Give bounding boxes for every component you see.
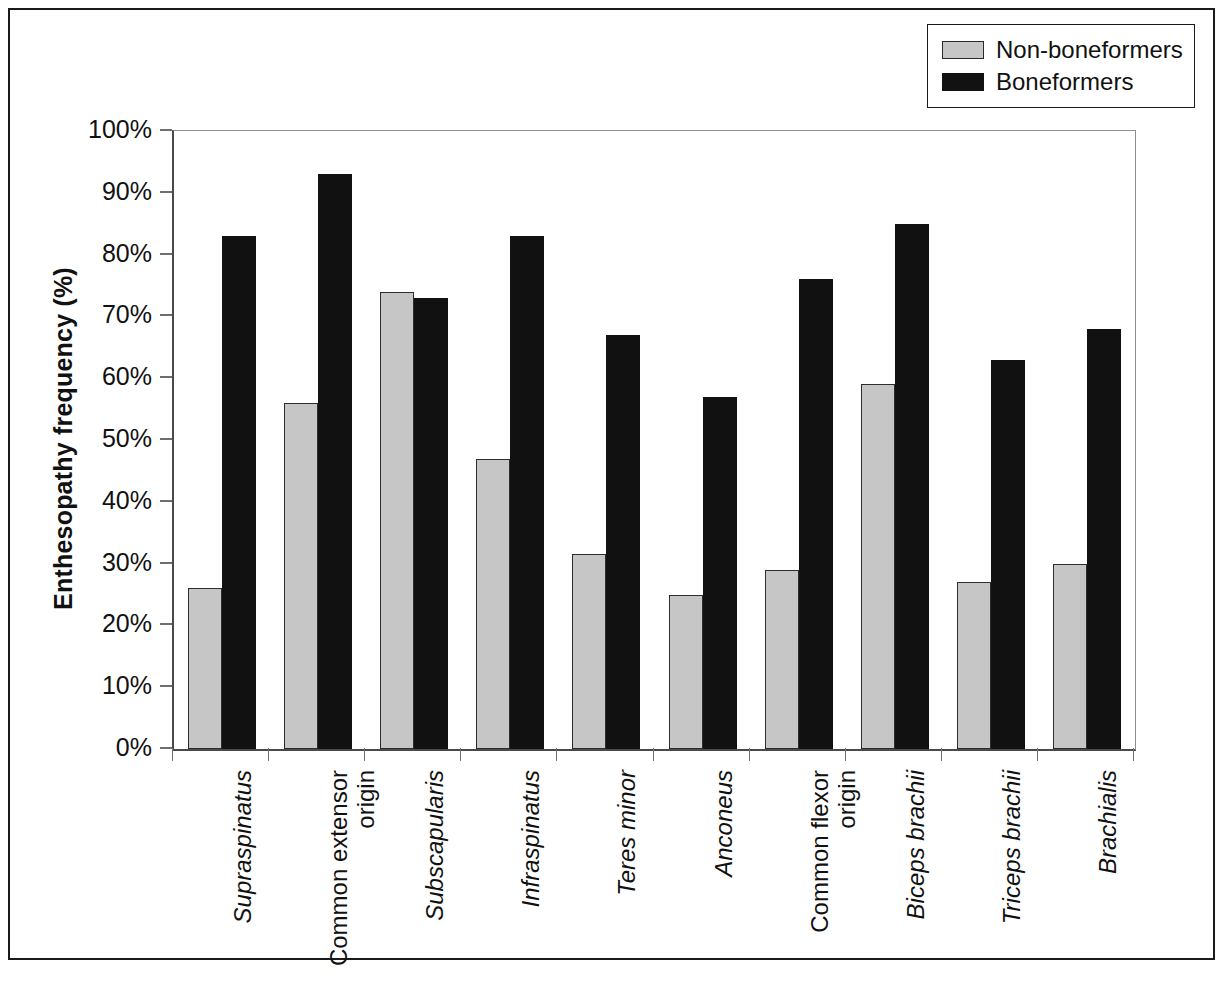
legend-label: Non-boneformers (996, 38, 1183, 62)
bar-non-boneformers (669, 595, 703, 750)
x-axis-category-label: Biceps brachii (903, 770, 930, 992)
x-axis-category-label: Common extensor origin (326, 770, 380, 992)
y-axis-tick-label: 60% (42, 364, 152, 389)
bar-boneformers (318, 174, 352, 749)
x-axis-tick (364, 748, 365, 761)
y-axis-tick-label: 40% (42, 488, 152, 513)
bar-non-boneformers (572, 554, 606, 749)
bar-non-boneformers (861, 384, 895, 749)
y-axis-tick-label: 10% (42, 673, 152, 698)
x-axis-tick (845, 748, 846, 761)
y-axis-tick (160, 500, 172, 502)
y-axis-tick-label: 80% (42, 241, 152, 266)
bar-non-boneformers (1053, 564, 1087, 749)
chart-legend: Non-boneformersBoneformers (927, 24, 1195, 108)
bar-boneformers (1087, 329, 1121, 749)
y-axis-tick (160, 747, 172, 749)
y-axis-tick-label: 30% (42, 550, 152, 575)
x-axis-tick (172, 748, 173, 761)
bar-non-boneformers (765, 570, 799, 749)
legend-label: Boneformers (996, 70, 1133, 94)
x-axis-tick (653, 748, 654, 761)
x-axis-tick (268, 748, 269, 761)
legend-swatch-icon (942, 41, 984, 59)
x-axis-category-label: Supraspinatus (230, 770, 257, 992)
x-axis-category-label: Subscapularis (422, 770, 449, 992)
bar-boneformers (606, 335, 640, 749)
bar-non-boneformers (188, 588, 222, 749)
y-axis-tick (160, 376, 172, 378)
x-axis-tick (1133, 748, 1134, 761)
bar-boneformers (895, 224, 929, 749)
x-axis-tick (460, 748, 461, 761)
y-axis-tick-label: 20% (42, 611, 152, 636)
y-axis-tick (160, 253, 172, 255)
y-axis-tick (160, 438, 172, 440)
x-axis-category-label: Anconeus (711, 770, 738, 992)
y-axis-tick-label: 0% (42, 735, 152, 760)
bar-boneformers (414, 298, 448, 749)
plot-area (172, 130, 1136, 751)
y-axis-tick-label: 70% (42, 302, 152, 327)
x-axis-tick (1037, 748, 1038, 761)
x-axis-category-label: Triceps brachii (999, 770, 1026, 992)
y-axis-tick-label: 50% (42, 426, 152, 451)
y-axis-tick (160, 191, 172, 193)
y-axis-tick (160, 562, 172, 564)
legend-item-boneformers: Boneformers (942, 66, 1194, 98)
y-axis-tick-label: 100% (42, 117, 152, 142)
x-axis-category-label: Brachialis (1095, 770, 1122, 992)
bar-boneformers (510, 236, 544, 749)
x-axis-category-label: Teres minor (614, 770, 641, 992)
y-axis-tick-label: 90% (42, 179, 152, 204)
legend-swatch-icon (942, 73, 984, 91)
bar-non-boneformers (380, 292, 414, 749)
bar-boneformers (799, 279, 833, 749)
y-axis-tick (160, 685, 172, 687)
bar-boneformers (703, 397, 737, 749)
x-axis-tick (941, 748, 942, 761)
x-axis-category-label: Common flexor origin (807, 770, 861, 992)
bar-boneformers (991, 360, 1025, 749)
y-axis-tick (160, 314, 172, 316)
bar-non-boneformers (957, 582, 991, 749)
x-axis-category-label: Infraspinatus (518, 770, 545, 992)
x-axis-tick (749, 748, 750, 761)
y-axis-tick (160, 623, 172, 625)
legend-item-non-boneformers: Non-boneformers (942, 34, 1194, 66)
x-axis-tick (556, 748, 557, 761)
bar-boneformers (222, 236, 256, 749)
y-axis-tick (160, 129, 172, 131)
bar-non-boneformers (476, 459, 510, 749)
bar-non-boneformers (284, 403, 318, 749)
